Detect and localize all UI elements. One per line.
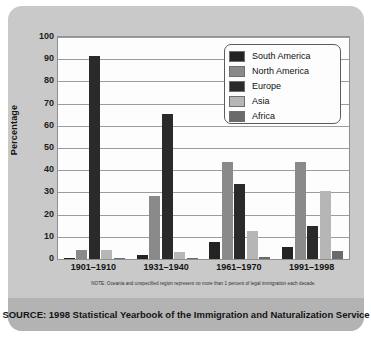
- y-axis-tick: 20: [28, 210, 54, 219]
- legend-label: Asia: [252, 96, 270, 106]
- bar[interactable]: [137, 255, 148, 259]
- bar[interactable]: [76, 250, 87, 259]
- bar-group: [58, 37, 131, 259]
- y-axis-tick: 70: [28, 99, 54, 108]
- legend-swatch-icon: [229, 96, 245, 107]
- chart-figure: 1009080706050403020100 Percentage 1901–1…: [0, 0, 371, 344]
- legend-item[interactable]: Europe: [229, 79, 340, 93]
- bar[interactable]: [320, 191, 331, 259]
- legend-label: North America: [252, 66, 309, 76]
- y-axis-tick: 90: [28, 54, 54, 63]
- y-axis-tick: 50: [28, 143, 54, 152]
- y-axis-title: Percentage: [9, 95, 19, 165]
- source-bar: SOURCE: 1998 Statistical Yearbook of the…: [8, 298, 364, 331]
- legend-item[interactable]: Africa: [229, 109, 340, 123]
- bar[interactable]: [149, 196, 160, 259]
- x-axis-tick-labels: 1901–19101931–19401961–19701991–1998: [57, 262, 350, 276]
- y-axis-tick: 0: [28, 254, 54, 263]
- bar[interactable]: [187, 258, 198, 259]
- y-axis-tick-labels: 1009080706050403020100: [22, 36, 54, 260]
- y-axis-tick: 80: [28, 76, 54, 85]
- bar[interactable]: [222, 162, 233, 259]
- legend-label: Europe: [252, 81, 281, 91]
- legend-label: Africa: [252, 111, 275, 121]
- bar[interactable]: [282, 247, 293, 259]
- x-axis-tick: 1991–1998: [275, 262, 348, 272]
- chart-legend[interactable]: South AmericaNorth AmericaEuropeAsiaAfri…: [224, 44, 341, 124]
- legend-swatch-icon: [229, 111, 245, 122]
- legend-swatch-icon: [229, 51, 245, 62]
- legend-item[interactable]: Asia: [229, 94, 340, 108]
- bar[interactable]: [101, 250, 112, 259]
- bar[interactable]: [307, 226, 318, 259]
- bar[interactable]: [162, 114, 173, 259]
- y-axis-tick: 60: [28, 121, 54, 130]
- x-axis-tick: 1901–1910: [57, 262, 130, 272]
- bar[interactable]: [295, 162, 306, 259]
- bar[interactable]: [89, 56, 100, 259]
- y-axis-tick: 30: [28, 187, 54, 196]
- bar[interactable]: [114, 258, 125, 259]
- y-axis-tick: 10: [28, 232, 54, 241]
- bar[interactable]: [259, 257, 270, 259]
- legend-swatch-icon: [229, 81, 245, 92]
- legend-label: South America: [252, 51, 311, 61]
- bar[interactable]: [64, 258, 75, 259]
- legend-item[interactable]: North America: [229, 64, 340, 78]
- legend-swatch-icon: [229, 66, 245, 77]
- bar[interactable]: [247, 231, 258, 259]
- bar-group: [131, 37, 204, 259]
- bar[interactable]: [332, 251, 343, 259]
- legend-item[interactable]: South America: [229, 49, 340, 63]
- bar[interactable]: [174, 252, 185, 259]
- y-axis-tick: 100: [28, 32, 54, 41]
- bar[interactable]: [234, 184, 245, 259]
- bar[interactable]: [209, 242, 220, 259]
- chart-note: NOTE: Oceania and unspecified region rep…: [57, 281, 350, 286]
- y-axis-tick: 40: [28, 165, 54, 174]
- x-axis-tick: 1931–1940: [130, 262, 203, 272]
- x-axis-tick: 1961–1970: [203, 262, 276, 272]
- source-text: SOURCE: 1998 Statistical Yearbook of the…: [2, 309, 369, 320]
